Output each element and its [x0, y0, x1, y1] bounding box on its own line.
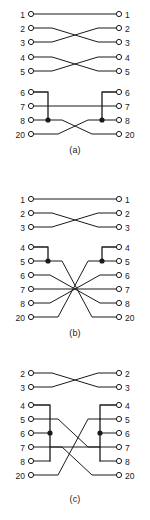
terminal-left-5	[28, 416, 33, 421]
pin-label-left-4: 4	[20, 243, 25, 253]
terminal-right-6	[116, 272, 121, 277]
pin-label-left-6: 6	[20, 271, 25, 281]
terminal-left-6	[28, 430, 33, 435]
pin-label-left-2: 2	[20, 369, 25, 379]
pin-label-left-2: 2	[20, 209, 25, 219]
wire-3-to-2	[34, 28, 116, 42]
caption-b: (b)	[0, 328, 150, 338]
pin-label-left-6: 6	[20, 429, 25, 439]
wire-3-to-2	[34, 373, 116, 387]
pin-label-right-4: 4	[125, 53, 130, 63]
terminal-left-7	[28, 103, 33, 108]
junction-dot-left-5	[45, 258, 50, 263]
terminal-right-8	[116, 300, 121, 305]
diagram-c: 2 3 4 5 6 7 8 20 2 3 4 5 6	[0, 360, 150, 505]
pin-label-right-2: 2	[125, 369, 130, 379]
figure-sheet: 1 2 3 4 5 6 7 8 20 1 2 3 4	[0, 0, 150, 520]
pin-label-left-5: 5	[20, 67, 25, 77]
bus-right-4-5	[102, 247, 116, 261]
pin-label-right-4: 4	[125, 243, 130, 253]
terminal-left-5	[28, 68, 33, 73]
terminal-left-4	[28, 54, 33, 59]
diagram-c-svg: 2 3 4 5 6 7 8 20 2 3 4 5 6	[0, 360, 150, 500]
pin-label-right-20: 20	[125, 471, 135, 481]
terminal-left-4	[28, 402, 33, 407]
junction-dot-left-6	[47, 430, 52, 435]
pin-label-left-3: 3	[20, 383, 25, 393]
terminal-left-6	[28, 272, 33, 277]
pin-label-right-20: 20	[125, 130, 135, 140]
terminal-left-7	[28, 286, 33, 291]
terminal-left-1	[28, 11, 33, 16]
pin-label-right-3: 3	[125, 38, 130, 48]
pin-label-left-8: 8	[20, 299, 25, 309]
terminal-right-4	[116, 54, 121, 59]
terminal-left-2	[28, 25, 33, 30]
pin-label-right-6: 6	[125, 271, 130, 281]
terminal-left-8	[28, 458, 33, 463]
pin-label-left-7: 7	[20, 443, 25, 453]
terminal-left-20	[28, 472, 33, 477]
caption-c: (c)	[0, 494, 150, 504]
terminal-right-7	[116, 286, 121, 291]
pin-label-right-2: 2	[125, 24, 130, 34]
terminal-right-5	[116, 416, 121, 421]
terminal-right-3	[116, 224, 121, 229]
pin-label-left-7: 7	[20, 285, 25, 295]
pin-label-right-8: 8	[125, 299, 130, 309]
terminal-left-2	[28, 370, 33, 375]
junction-dot-left-8	[45, 117, 50, 122]
terminal-left-3	[28, 39, 33, 44]
terminal-left-2	[28, 210, 33, 215]
wire-left-bus-to-right-20	[48, 120, 116, 134]
terminal-right-3	[116, 39, 121, 44]
pin-label-left-20: 20	[16, 471, 26, 481]
terminal-right-7	[116, 103, 121, 108]
diagram-a-svg: 1 2 3 4 5 6 7 8 20 1 2 3 4	[0, 0, 150, 150]
terminal-right-7	[116, 444, 121, 449]
junction-dot-right-5	[99, 258, 104, 263]
terminal-right-6	[116, 89, 121, 94]
pin-label-left-1: 1	[20, 195, 25, 205]
terminal-right-8	[116, 117, 121, 122]
pin-label-right-5: 5	[125, 257, 130, 267]
pin-label-right-7: 7	[125, 285, 130, 295]
diagram-b: 1 2 3 4 5 6 7 8 20 1 2 3 4	[0, 186, 150, 341]
pin-label-left-5: 5	[20, 257, 25, 267]
diagram-a: 1 2 3 4 5 6 7 8 20 1 2 3 4	[0, 0, 150, 160]
junction-dot-right-8	[99, 117, 104, 122]
pin-label-right-6: 6	[125, 429, 130, 439]
pin-label-right-7: 7	[125, 443, 130, 453]
terminal-right-2	[116, 370, 121, 375]
terminal-left-20	[28, 314, 33, 319]
pin-label-left-20: 20	[16, 313, 26, 323]
pin-label-left-8: 8	[20, 457, 25, 467]
pin-label-left-4: 4	[20, 401, 25, 411]
pin-label-right-1: 1	[125, 10, 130, 20]
pin-label-left-8: 8	[20, 116, 25, 126]
pin-label-right-8: 8	[125, 116, 130, 126]
terminal-left-3	[28, 384, 33, 389]
terminal-right-6	[116, 430, 121, 435]
pin-label-right-20: 20	[125, 313, 135, 323]
terminal-left-3	[28, 224, 33, 229]
terminal-right-20	[116, 314, 121, 319]
pin-label-left-7: 7	[20, 102, 25, 112]
caption-a: (a)	[0, 145, 150, 155]
terminal-left-8	[28, 117, 33, 122]
terminal-right-5	[116, 258, 121, 263]
terminal-right-4	[116, 402, 121, 407]
pin-label-right-8: 8	[125, 457, 130, 467]
pin-label-left-5: 5	[20, 415, 25, 425]
terminal-left-20	[28, 131, 33, 136]
terminal-right-1	[116, 11, 121, 16]
pin-label-left-20: 20	[16, 130, 26, 140]
terminal-left-4	[28, 244, 33, 249]
diagram-b-svg: 1 2 3 4 5 6 7 8 20 1 2 3 4	[0, 186, 150, 334]
terminal-right-1	[116, 196, 121, 201]
wire-3-to-2	[34, 213, 116, 227]
terminal-left-1	[28, 196, 33, 201]
pin-label-left-2: 2	[20, 24, 25, 34]
pin-label-right-5: 5	[125, 67, 130, 77]
pin-label-right-5: 5	[125, 415, 130, 425]
